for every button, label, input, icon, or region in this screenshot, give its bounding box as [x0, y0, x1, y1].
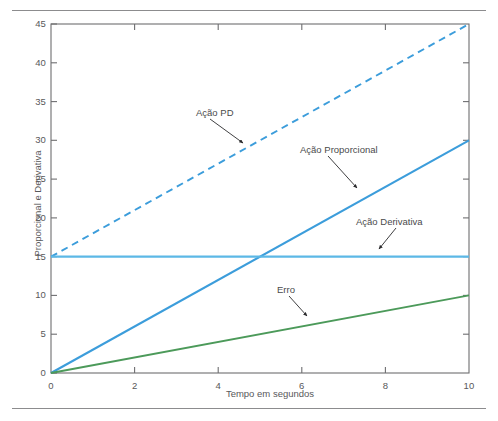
leader-arrow-acao-pd	[210, 119, 243, 143]
leader-arrow-acao-proporcional	[328, 156, 357, 188]
annotation-label-acao-derivativa: Ação Derivativa	[356, 216, 423, 227]
y-axis-title: Proporcional e Derivativa	[32, 124, 43, 284]
x-tick-label-10: 10	[456, 380, 482, 391]
y-axis-ticks-right	[463, 63, 469, 334]
plot-frame-border	[51, 24, 469, 373]
x-tick-label-0: 0	[38, 380, 64, 391]
x-tick-label-2: 2	[122, 380, 148, 391]
x-axis-ticks	[135, 24, 386, 373]
leader-arrow-acao-derivativa	[379, 228, 396, 249]
y-tick-label-35: 35	[20, 96, 46, 107]
x-tick-label-8: 8	[372, 380, 398, 391]
y-tick-label-10: 10	[20, 289, 46, 300]
y-axis-ticks	[51, 24, 57, 373]
leader-arrow-erro	[289, 296, 307, 316]
y-tick-label-45: 45	[20, 18, 46, 29]
annotation-label-acao-pd: Ação PD	[196, 107, 234, 118]
y-tick-label-0: 0	[20, 367, 46, 378]
x-axis-title: Tempo em segundos	[190, 388, 350, 399]
axis-frame	[51, 24, 469, 373]
y-tick-label-40: 40	[20, 57, 46, 68]
annotation-label-acao-proporcional: Ação Proporcional	[300, 144, 378, 155]
series-line-erro	[51, 295, 469, 373]
annotation-label-erro: Erro	[277, 284, 295, 295]
y-tick-label-5: 5	[20, 328, 46, 339]
line-chart-plot	[0, 0, 498, 421]
figure-container: 45 40 35 30 25 20 15 10 5 0 0 2 4 6 8 10…	[0, 0, 498, 421]
